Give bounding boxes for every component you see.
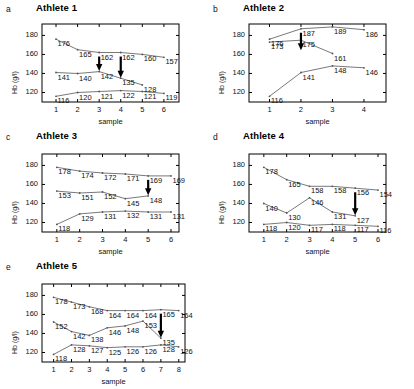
x-tick-label: 3 <box>323 106 341 114</box>
data-value-label: 174 <box>81 172 94 180</box>
x-tick-label: 5 <box>346 236 364 244</box>
data-value-label: 125 <box>109 349 122 357</box>
x-tick-label: 2 <box>69 106 87 114</box>
x-tick-label: 1 <box>260 106 278 114</box>
data-value-label: 165 <box>79 51 92 59</box>
data-value-label: 164 <box>180 312 193 320</box>
series-line-b-top <box>270 27 365 39</box>
x-tick-label: 7 <box>152 366 170 374</box>
data-value-label: 121 <box>144 93 157 101</box>
data-value-label: 146 <box>311 199 324 207</box>
x-axis-label-b: sample <box>249 117 386 126</box>
x-tick-label: 8 <box>170 366 188 374</box>
data-value-label: 187 <box>303 30 316 38</box>
data-value-label: 126 <box>145 348 158 356</box>
y-tick-label: 160 <box>16 180 38 188</box>
data-value-label: 116 <box>271 97 283 105</box>
data-value-label: 126 <box>127 348 140 356</box>
panel-c: cAthlete 3Hb (g/l)120140160180123456samp… <box>0 128 207 258</box>
data-value-label: 165 <box>288 181 301 189</box>
data-value-label: 131 <box>334 213 347 221</box>
y-tick-label: 120 <box>16 88 38 96</box>
data-value-label: 141 <box>303 74 316 82</box>
data-value-label: 171 <box>127 175 140 183</box>
x-tick-label: 2 <box>62 366 80 374</box>
data-value-label: 173 <box>73 303 86 311</box>
x-tick-label: 6 <box>369 236 387 244</box>
data-value-label: 152 <box>104 193 117 201</box>
data-value-label: 168 <box>91 308 104 316</box>
data-value-label: 153 <box>58 192 71 200</box>
y-tick-label: 160 <box>223 50 245 58</box>
panel-title-e: Athlete 5 <box>36 261 77 271</box>
x-tick-label: 4 <box>355 106 373 114</box>
x-tick-label: 6 <box>155 106 173 114</box>
y-tick-label: 180 <box>16 291 38 299</box>
data-value-label: 164 <box>109 312 122 320</box>
data-value-label: 160 <box>144 55 157 63</box>
panel-title-c: Athlete 3 <box>36 131 77 141</box>
panel-letter-a: a <box>6 5 11 14</box>
data-value-label: 127 <box>357 217 370 225</box>
data-value-label: 158 <box>311 187 324 195</box>
data-value-label: 178 <box>265 168 278 176</box>
data-value-label: 131 <box>150 213 163 221</box>
panel-letter-d: d <box>213 133 218 142</box>
panel-letter-b: b <box>213 5 218 14</box>
y-tick-label: 120 <box>223 218 245 226</box>
data-value-label: 146 <box>366 69 379 77</box>
data-value-label: 127 <box>91 347 104 355</box>
data-value-label: 157 <box>165 58 178 66</box>
y-tick-label: 140 <box>223 199 245 207</box>
data-value-label: 116 <box>58 97 70 105</box>
data-value-label: 186 <box>366 31 379 39</box>
data-value-label: 120 <box>79 94 92 102</box>
data-value-label: 178 <box>55 298 68 306</box>
data-value-label: 189 <box>334 28 347 36</box>
data-value-label: 145 <box>127 200 140 208</box>
panel-title-d: Athlete 4 <box>243 131 284 141</box>
data-value-label: 148 <box>127 327 140 335</box>
y-tick-label: 120 <box>16 348 38 356</box>
data-value-label: 153 <box>145 322 158 330</box>
y-tick-label: 180 <box>223 161 245 169</box>
data-value-label: 121 <box>101 93 114 101</box>
x-axis-label-c: sample <box>42 247 179 256</box>
y-tick-label: 160 <box>223 180 245 188</box>
data-value-label: 118 <box>55 355 67 363</box>
data-value-label: 140 <box>79 75 92 83</box>
data-value-label: 118 <box>265 225 277 233</box>
data-value-label: 128 <box>73 346 86 354</box>
panel-letter-c: c <box>6 133 10 142</box>
y-tick-label: 120 <box>223 88 245 96</box>
x-tick-label: 1 <box>47 106 65 114</box>
data-value-label: 117 <box>357 226 369 234</box>
data-value-label: 158 <box>334 187 347 195</box>
plot-area-b <box>207 0 414 128</box>
x-axis-label-a: sample <box>42 117 179 126</box>
data-value-label: 132 <box>127 212 140 220</box>
y-tick-label: 180 <box>16 31 38 39</box>
y-tick-label: 180 <box>223 31 245 39</box>
x-tick-label: 6 <box>162 236 180 244</box>
data-value-label: 122 <box>122 92 135 100</box>
data-value-label: 151 <box>81 194 94 202</box>
data-value-label: 178 <box>58 168 71 176</box>
panel-title-a: Athlete 1 <box>36 3 77 13</box>
y-tick-label: 120 <box>16 218 38 226</box>
x-tick-label: 1 <box>48 236 66 244</box>
panel-title-b: Athlete 2 <box>243 3 284 13</box>
y-tick-label: 160 <box>16 310 38 318</box>
y-tick-label: 140 <box>16 199 38 207</box>
panel-e: eAthlete 5Hb (g/l)12014016018012345678sa… <box>0 258 214 389</box>
data-value-label: 130 <box>288 214 301 222</box>
data-value-label: 140 <box>265 205 278 213</box>
data-value-label: 152 <box>55 323 68 331</box>
data-value-label: 118 <box>58 225 70 233</box>
data-value-label: 131 <box>173 213 186 221</box>
data-value-label: 138 <box>91 336 104 344</box>
data-value-label: 173 <box>271 43 284 51</box>
data-value-label: 172 <box>104 174 117 182</box>
y-tick-label: 160 <box>16 50 38 58</box>
data-value-label: 169 <box>150 177 163 185</box>
